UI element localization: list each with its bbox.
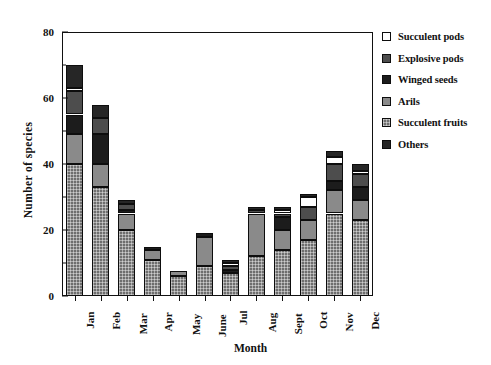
legend-swatch-arils	[382, 97, 391, 106]
bar-segment-others	[248, 207, 265, 210]
legend-label: Succulent pods	[398, 31, 464, 42]
x-tick-label-sept: Sept	[293, 313, 305, 334]
bar-segment-succulent-fruits	[92, 187, 109, 296]
x-tick-mark	[127, 296, 128, 301]
bar-segment-succulent-fruits	[352, 220, 369, 296]
bar-sept	[274, 32, 291, 296]
bar-segment-others	[66, 65, 83, 88]
bar-segment-arils	[326, 190, 343, 213]
bar-segment-succulent-pods	[326, 157, 343, 164]
x-tick-label-oct: Oct	[317, 312, 329, 329]
legend-item-succulent-pods[interactable]: Succulent pods	[382, 26, 491, 48]
bar-segment-others	[352, 164, 369, 171]
bar-segment-others	[274, 207, 291, 210]
x-tick-mark	[334, 296, 335, 301]
bar-segment-others	[300, 194, 317, 197]
bar-segment-winged-seeds	[326, 181, 343, 191]
x-tick-mark	[230, 296, 231, 301]
x-tick-label-nov: Nov	[344, 312, 356, 331]
y-tick-label: 80	[32, 26, 54, 38]
bar-segment-succulent-fruits	[196, 266, 213, 296]
legend-item-winged-seeds[interactable]: Winged seeds	[382, 69, 491, 91]
bar-oct	[300, 32, 317, 296]
bar-segment-explosive-pods	[66, 91, 83, 114]
bar-segment-explosive-pods	[118, 204, 135, 211]
bar-segment-winged-seeds	[222, 270, 239, 273]
bar-mar	[118, 32, 135, 296]
bar-segment-succulent-fruits	[326, 214, 343, 297]
bar-aug	[248, 32, 265, 296]
y-tick-mark-minor	[62, 263, 66, 264]
bar-segment-arils	[170, 271, 187, 276]
chart-legend: Succulent podsExplosive podsWinged seeds…	[382, 26, 491, 155]
legend-item-arils[interactable]: Arils	[382, 91, 491, 113]
bar-segment-explosive-pods	[248, 210, 265, 213]
bar-segment-explosive-pods	[300, 207, 317, 220]
bar-nov	[326, 32, 343, 296]
plot-area	[62, 32, 373, 296]
bar-segment-arils	[144, 250, 161, 260]
bar-segment-succulent-fruits	[222, 273, 239, 296]
x-tick-label-may: May	[189, 314, 201, 335]
bar-dec	[352, 32, 369, 296]
bar-segment-others	[92, 105, 109, 118]
bar-segment-succulent-pods	[222, 263, 239, 266]
bar-segment-arils	[300, 220, 317, 240]
legend-label: Explosive pods	[398, 53, 463, 64]
y-tick-label: 60	[32, 92, 54, 104]
bar-segment-succulent-pods	[66, 88, 83, 91]
bar-segment-succulent-fruits	[66, 164, 83, 296]
bar-segment-others	[326, 151, 343, 158]
bar-segment-succulent-fruits	[274, 250, 291, 296]
legend-label: Others	[398, 139, 428, 150]
x-tick-label-jul: Jul	[238, 310, 250, 325]
x-tick-mark	[282, 296, 283, 301]
x-tick-label-june: June	[216, 314, 228, 337]
x-tick-mark	[256, 296, 257, 301]
x-tick-mark	[360, 296, 361, 301]
y-tick-mark-minor	[62, 65, 66, 66]
bar-segment-winged-seeds	[352, 187, 369, 200]
x-tick-label-jan: Jan	[84, 312, 96, 329]
bar-segment-arils	[274, 230, 291, 250]
bar-segment-winged-seeds	[66, 115, 83, 135]
bar-segment-explosive-pods	[274, 214, 291, 217]
bar-segment-arils	[92, 164, 109, 187]
legend-swatch-succulent-pods	[382, 32, 391, 41]
bar-segment-winged-seeds	[118, 210, 135, 213]
legend-label: Arils	[398, 96, 420, 107]
x-tick-mark	[75, 296, 76, 301]
bar-segment-others	[222, 260, 239, 263]
bar-segment-explosive-pods	[326, 164, 343, 181]
bar-segment-arils	[66, 134, 83, 164]
bar-jan	[66, 32, 83, 296]
bar-segment-arils	[118, 214, 135, 231]
y-tick-mark-minor	[62, 197, 66, 198]
x-tick-label-apr: Apr	[162, 312, 174, 331]
bar-segment-succulent-pods	[352, 171, 369, 174]
y-tick-label: 40	[32, 158, 54, 170]
bar-apr	[144, 32, 161, 296]
bar-segment-winged-seeds	[274, 217, 291, 230]
legend-label: Succulent fruits	[398, 117, 467, 128]
x-tick-label-feb: Feb	[110, 312, 122, 330]
bar-segment-arils	[196, 237, 213, 267]
bar-segment-arils	[248, 214, 265, 257]
stacked-bar-chart: 020406080 Number of species JanFebMarApr…	[0, 0, 491, 365]
bar-segment-explosive-pods	[92, 118, 109, 135]
legend-label: Winged seeds	[398, 74, 458, 85]
bar-segment-succulent-fruits	[118, 230, 135, 296]
y-tick-mark	[62, 230, 68, 231]
y-tick-label: 0	[32, 290, 54, 302]
bar-segment-succulent-pods	[274, 210, 291, 213]
bar-segment-succulent-pods	[300, 197, 317, 207]
legend-item-succulent-fruits[interactable]: Succulent fruits	[382, 112, 491, 134]
legend-item-others[interactable]: Others	[382, 134, 491, 156]
x-tick-mark	[153, 296, 154, 301]
bar-segment-succulent-fruits	[170, 276, 187, 296]
x-axis-title: Month	[0, 342, 491, 354]
bar-segment-winged-seeds	[144, 247, 161, 250]
legend-item-explosive-pods[interactable]: Explosive pods	[382, 48, 491, 70]
y-axis-title: Number of species	[22, 90, 34, 250]
y-tick-mark	[62, 32, 68, 33]
